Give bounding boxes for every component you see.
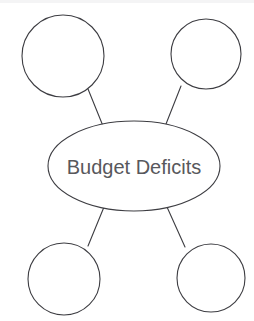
connector-center-to-top-right	[166, 86, 181, 124]
connector-center-to-top-left	[88, 89, 103, 126]
bottom-left-blank-node[interactable]	[28, 243, 100, 315]
concept-map-diagram: Budget Deficits	[0, 0, 254, 321]
bottom-right-blank-node[interactable]	[177, 244, 245, 312]
connector-center-to-bottom-right	[167, 207, 185, 247]
top-left-blank-node[interactable]	[22, 15, 104, 97]
top-right-blank-node[interactable]	[171, 19, 241, 89]
center-node-label: Budget Deficits	[67, 156, 202, 178]
connector-center-to-bottom-left	[88, 207, 104, 246]
concept-map-canvas: Budget Deficits	[0, 0, 254, 321]
